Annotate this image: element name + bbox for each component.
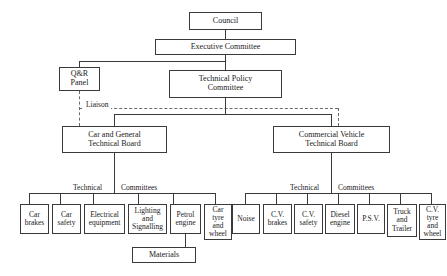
committee-box-electrical-equipment: Electrical equipment: [84, 204, 125, 234]
committee-box-noise: Noise: [232, 204, 260, 234]
committee-box-cv-brakes: C.V. brakes: [263, 204, 292, 234]
connector-cv-drop-5: [400, 193, 401, 204]
connector-car-board-stem: [114, 153, 115, 193]
connector-to-cv-board: [331, 114, 332, 126]
connector-cv-board-stem: [331, 153, 332, 193]
label-liaison: Liaison: [84, 100, 111, 109]
connector-to-technical-policy: [225, 61, 226, 70]
connector-car-drop-1: [60, 193, 61, 204]
committee-box-car-tyre-wheel: Car tyre and wheel: [204, 204, 232, 240]
committee-box-cv-tyre-wheel: C.V. tyre and wheel: [419, 204, 446, 240]
committee-box-cv-safety: C.V. safety: [294, 204, 323, 234]
connector-car-drop-3: [138, 193, 139, 204]
connector-car-committees-bus: [29, 193, 215, 194]
connector-cv-drop-0: [245, 193, 246, 204]
committee-box-diesel-engine: Diesel engine: [325, 204, 355, 234]
node-technical-policy-committee: Technical Policy Committee: [169, 70, 282, 98]
connector-to-car-board: [114, 114, 115, 126]
connector-cv-drop-4: [369, 193, 370, 204]
connector-car-drop-5: [215, 193, 216, 204]
connector-council-executive: [225, 30, 226, 39]
connector-car-drop-0: [29, 193, 30, 204]
connector-policy-stem: [225, 98, 226, 114]
committee-box-psv: P.S.V.: [357, 204, 385, 234]
connector-petrol-to-materials: [185, 234, 186, 247]
node-executive-committee: Executive Committee: [155, 39, 296, 55]
connector-car-drop-4: [173, 193, 174, 204]
node-materials: Materials: [132, 247, 196, 263]
label-committees-left: Committees: [119, 183, 159, 192]
connector-cv-drop-6: [431, 193, 432, 204]
committee-box-car-brakes: Car brakes: [20, 204, 49, 234]
connector-cv-drop-2: [307, 193, 308, 204]
committee-box-lighting-signalling: Lighting and Signalling: [128, 204, 167, 234]
node-qr-panel: Q&R Panel: [59, 67, 100, 91]
liaison-dashed-horizontal: [79, 108, 338, 109]
committee-box-truck-trailer: Truck and Trailer: [387, 204, 417, 237]
committee-box-petrol-engine: Petrol engine: [170, 204, 201, 234]
liaison-dashed-vertical-right: [338, 108, 339, 126]
label-committees-right: Committees: [336, 183, 376, 192]
label-technical-right: Technical: [288, 183, 321, 192]
label-technical-left: Technical: [71, 183, 104, 192]
node-car-general-technical-board: Car and General Technical Board: [62, 126, 167, 153]
connector-car-drop-2: [93, 193, 94, 204]
connector-executive-bus: [79, 61, 226, 62]
connector-cv-drop-1: [276, 193, 277, 204]
node-council: Council: [189, 12, 262, 30]
committee-box-car-safety: Car safety: [52, 204, 81, 234]
connector-cv-drop-3: [338, 193, 339, 204]
node-commercial-vehicle-technical-board: Commercial Vehicle Technical Board: [273, 126, 390, 153]
connector-boards-bus: [114, 114, 331, 115]
org-chart-diagram: Council Executive Committee Q&R Panel Te…: [0, 0, 447, 276]
